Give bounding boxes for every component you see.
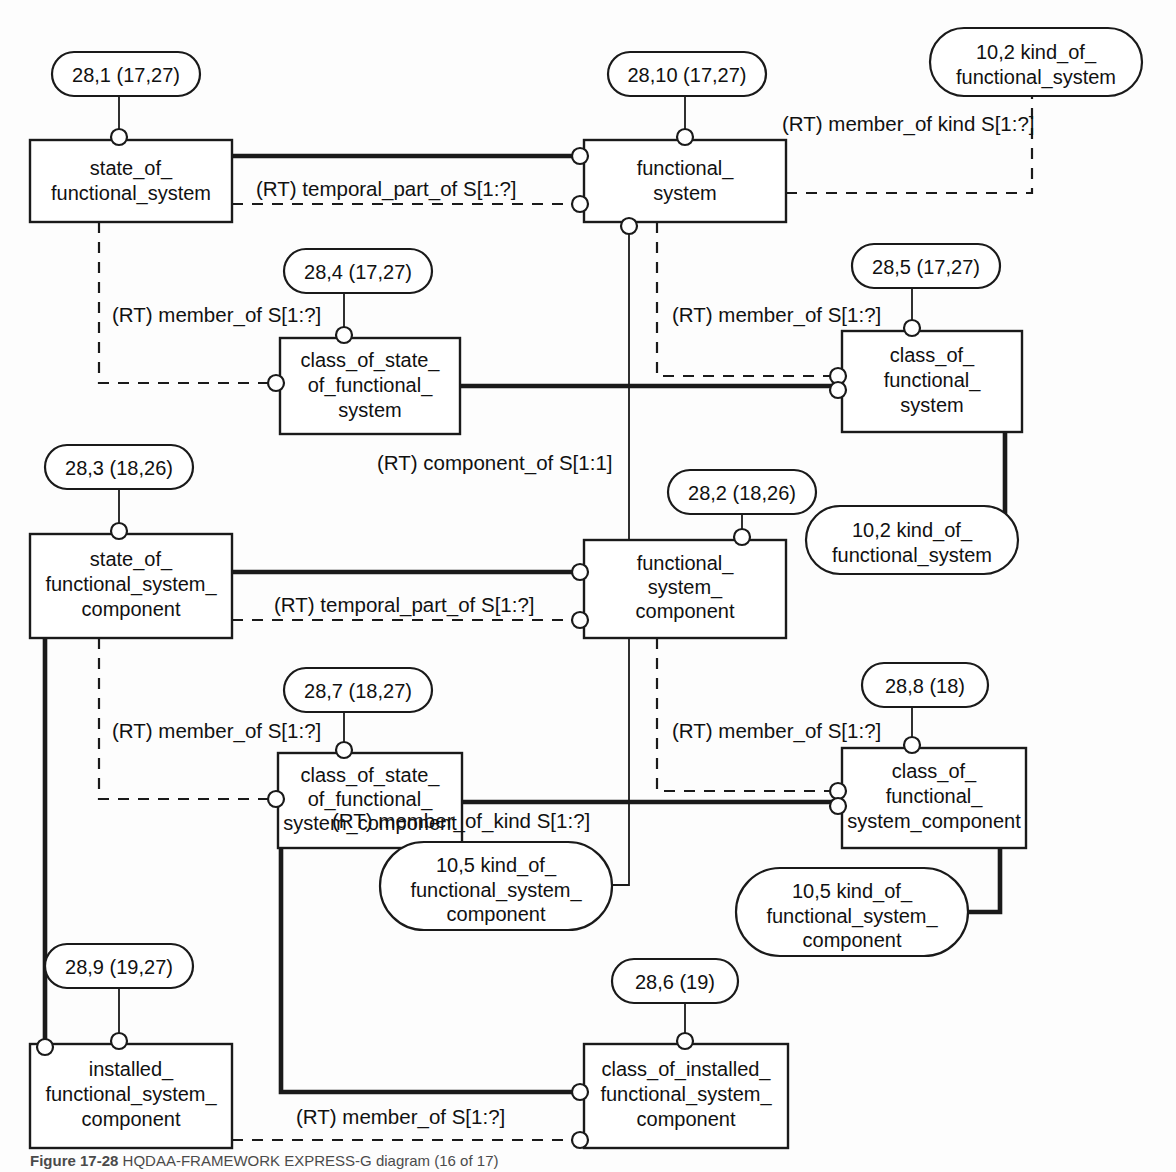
conn-circle-cofsc-supertype	[830, 798, 846, 814]
entity-label-line: class_of_	[890, 344, 975, 367]
entity-label-line: system_component	[847, 810, 1021, 833]
kind-oval-label: functional_system	[956, 66, 1116, 89]
ref-oval-28-4[interactable]: 28,4 (17,27)	[284, 249, 432, 293]
entity-label-line: class_of_state_	[301, 349, 441, 372]
entity-class-of-state-of-functional-system[interactable]: class_of_state_ of_functional_ system	[280, 338, 460, 434]
ref-oval-28-7[interactable]: 28,7 (18,27)	[284, 668, 432, 712]
relationship-label-member-of-right-upper: (RT) member_of S[1:?]	[672, 303, 881, 327]
ref-oval-label: 28,10 (17,27)	[628, 64, 747, 86]
conn-circle-28-4	[336, 327, 352, 343]
kind-oval-label: component	[803, 929, 902, 951]
entity-label-line: component	[637, 1108, 736, 1130]
ref-oval-28-6[interactable]: 28,6 (19)	[612, 959, 738, 1003]
entity-state-of-functional-system[interactable]: state_of_ functional_system	[30, 140, 232, 222]
ref-oval-label: 28,8 (18)	[885, 675, 965, 697]
conn-circle-28-7	[336, 742, 352, 758]
relationship-label-temporal-part-of-mid: (RT) temporal_part_of S[1:?]	[274, 593, 535, 617]
entity-installed-functional-system-component[interactable]: installed_ functional_system_ component	[30, 1044, 232, 1148]
conn-circle-28-5	[904, 320, 920, 336]
entity-label-line: component	[636, 600, 735, 622]
ref-oval-label: 28,6 (19)	[635, 971, 715, 993]
conn-circle-fs-supertype	[572, 148, 588, 164]
entity-label-line: system_	[648, 576, 723, 599]
conn-circle-fsc-supertype	[572, 564, 588, 580]
kind-oval-label: functional_system	[832, 544, 992, 567]
ref-oval-label: 28,3 (18,26)	[65, 457, 173, 479]
entity-label-line: state_of_	[90, 157, 173, 180]
link-member-of-kind-top	[786, 95, 1032, 193]
conn-circle-28-2	[734, 529, 750, 545]
ref-oval-28-9[interactable]: 28,9 (19,27)	[45, 944, 193, 988]
entity-class-of-functional-system-component[interactable]: class_of_ functional_ system_component	[842, 748, 1026, 848]
relationship-label-member-of-left-upper: (RT) member_of S[1:?]	[112, 303, 321, 327]
entity-label-line: functional_	[637, 552, 735, 575]
link-member-of-kind-lower	[610, 638, 629, 885]
kind-oval-kind-of-functional-system-mid[interactable]: 10,2 kind_of_ functional_system	[806, 506, 1018, 574]
kind-oval-kind-of-functional-system-component-left[interactable]: 10,5 kind_of_ functional_system_ compone…	[380, 842, 612, 930]
conn-circle-cosfs-member	[268, 375, 284, 391]
kind-oval-label: 10,5 kind_of_	[436, 854, 557, 877]
entity-state-of-functional-system-component[interactable]: state_of_ functional_system_ component	[30, 534, 232, 638]
conn-circle-cosfsc-member	[268, 791, 284, 807]
conn-circle-cofs-supertype	[830, 382, 846, 398]
express-g-diagram: state_of_ functional_system functional_ …	[0, 0, 1176, 1172]
kind-oval-kind-of-functional-system-top[interactable]: 10,2 kind_of_ functional_system	[930, 28, 1142, 96]
entity-class-of-state-of-functional-system-component[interactable]: class_of_state_ of_functional_ system_co…	[278, 753, 462, 848]
ref-oval-28-1[interactable]: 28,1 (17,27)	[52, 52, 200, 96]
conn-circle-28-6	[677, 1033, 693, 1049]
ref-oval-28-8[interactable]: 28,8 (18)	[862, 663, 988, 707]
kind-oval-label: 10,2 kind_of_	[852, 519, 973, 542]
kind-oval-label: functional_system_	[766, 905, 938, 928]
entity-label-line: installed_	[89, 1058, 174, 1081]
relationship-label-temporal-part-of-top: (RT) temporal_part_of S[1:?]	[256, 177, 517, 201]
entity-label-line: functional_	[884, 369, 982, 392]
entity-class-of-installed-functional-system-component[interactable]: class_of_installed_ functional_system_ c…	[584, 1044, 788, 1148]
kind-oval-label: functional_system_	[410, 879, 582, 902]
entity-label-line: component	[82, 598, 181, 620]
relationship-label-member-of-right-lower: (RT) member_of S[1:?]	[672, 719, 881, 743]
kind-oval-label: component	[447, 903, 546, 925]
ref-oval-label: 28,4 (17,27)	[304, 261, 412, 283]
link-member-of-right-upper	[657, 222, 838, 376]
conn-circle-ifsc-subtype	[37, 1039, 53, 1055]
entity-functional-system[interactable]: functional_ system	[584, 140, 786, 222]
relationship-label-component-of: (RT) component_of S[1:1]	[377, 451, 613, 475]
figure-caption-label: Figure 17-28	[30, 1152, 118, 1169]
conn-circle-fs-component-of	[621, 218, 637, 234]
kind-oval-label: 10,5 kind_of_	[792, 880, 913, 903]
kind-oval-label: 10,2 kind_of_	[976, 41, 1097, 64]
entity-label-line: functional_system	[51, 182, 211, 205]
entity-label-line: class_of_installed_	[602, 1058, 772, 1081]
entity-label-line: functional_	[886, 785, 984, 808]
conn-circle-28-3	[111, 523, 127, 539]
conn-circle-fs-temporal	[572, 196, 588, 212]
conn-circle-28-1	[111, 129, 127, 145]
entity-functional-system-component[interactable]: functional_ system_ component	[584, 540, 786, 638]
entity-label-line: of_functional_	[308, 788, 433, 811]
entity-label-line: functional_system_	[45, 1083, 217, 1106]
conn-circle-cofsc-member	[830, 783, 846, 799]
entity-label-line: functional_	[637, 157, 735, 180]
conn-circle-cifsc-member	[572, 1132, 588, 1148]
entity-class-of-functional-system[interactable]: class_of_ functional_ system	[842, 331, 1022, 432]
ref-oval-28-5[interactable]: 28,5 (17,27)	[852, 244, 1000, 288]
ref-oval-28-3[interactable]: 28,3 (18,26)	[45, 445, 193, 489]
ref-oval-28-10[interactable]: 28,10 (17,27)	[608, 52, 766, 96]
figure-caption: Figure 17-28 HQDAA-FRAMEWORK EXPRESS-G d…	[30, 1152, 498, 1169]
conn-circle-cifsc-supertype	[572, 1084, 588, 1100]
ref-oval-28-2[interactable]: 28,2 (18,26)	[668, 470, 816, 514]
conn-circle-28-9	[111, 1033, 127, 1049]
ref-oval-label: 28,5 (17,27)	[872, 256, 980, 278]
entity-label-line: system	[653, 182, 716, 204]
kind-oval-kind-of-functional-system-component-right[interactable]: 10,5 kind_of_ functional_system_ compone…	[736, 868, 968, 956]
entity-label-line: class_of_state_	[301, 764, 441, 787]
ref-oval-label: 28,2 (18,26)	[688, 482, 796, 504]
entity-label-line: functional_system_	[45, 573, 217, 596]
figure-caption-text: HQDAA-FRAMEWORK EXPRESS-G diagram (16 of…	[123, 1152, 499, 1169]
conn-circle-fsc-temporal	[572, 612, 588, 628]
entity-label-line: class_of_	[892, 760, 977, 783]
entity-label-line: component	[82, 1108, 181, 1130]
conn-circle-28-8	[904, 737, 920, 753]
link-member-of-right-lower	[657, 638, 838, 791]
relationship-label-member-of-kind-top: (RT) member_of kind S[1:?]	[782, 112, 1035, 136]
